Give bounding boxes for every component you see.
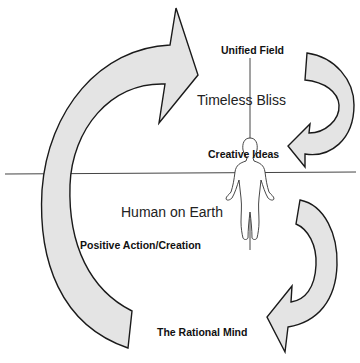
unified-field-label: Unified Field [221,45,284,56]
upper-right-curved-arrow-icon [288,53,354,167]
lower-right-curved-arrow-icon [267,200,337,352]
rational-mind-label: The Rational Mind [157,327,247,338]
positive-action-label: Positive Action/Creation [80,240,201,251]
timeless-bliss-label: Timeless Bliss [197,93,286,107]
human-on-earth-label: Human on Earth [121,205,223,219]
diagram-canvas [0,0,360,363]
creative-ideas-label: Creative Ideas [208,149,279,160]
large-curved-arrow-icon [42,8,198,348]
